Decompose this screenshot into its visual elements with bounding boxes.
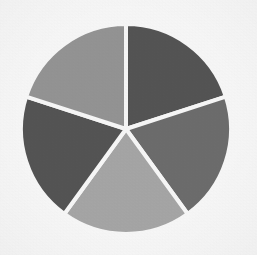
pie-slice-group: Slice 1 — 20%Slice 2 — 20%Slice 3 — 20%S…: [21, 24, 231, 234]
pie-chart-canvas: Slice 1 — 20%Slice 2 — 20%Slice 3 — 20%S…: [0, 0, 257, 255]
pie-chart-figure: Slice 1 — 20%Slice 2 — 20%Slice 3 — 20%S…: [0, 0, 257, 255]
